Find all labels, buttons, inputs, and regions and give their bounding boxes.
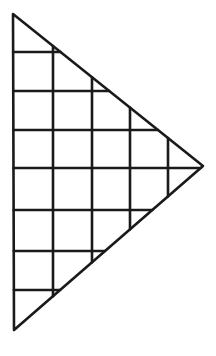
gridded-triangle-diagram [0,0,216,356]
triangle-outline [13,14,203,330]
grid-lines [13,46,201,296]
triangle-grid-figure [0,0,216,356]
